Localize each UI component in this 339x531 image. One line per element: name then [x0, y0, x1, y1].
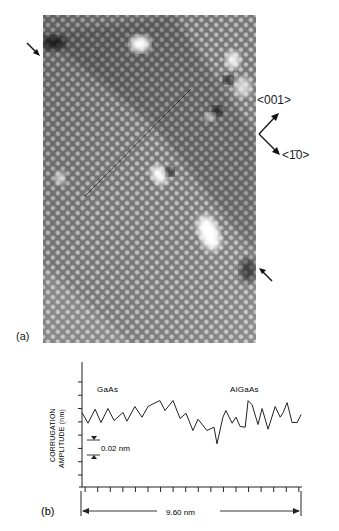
y-axis-label-line2: AMPLITUDE (nm): [58, 409, 66, 468]
y-axis-label-line1: CORRUGATION: [49, 408, 56, 462]
length-scale-label: 9.60 nm: [166, 508, 195, 517]
annotation-gaas: GaAs: [97, 385, 118, 394]
amplitude-scale-marker: [87, 436, 100, 459]
annotation-algaas: AlGaAs: [230, 385, 259, 394]
direction-label-1-10: <1̄0>: [282, 148, 309, 162]
x-axis-ticks: [85, 487, 299, 492]
interface-arrow-icon: [27, 43, 40, 56]
direction-label-001: <001>: [257, 93, 291, 107]
amplitude-scale-label: 0.02 nm: [101, 444, 130, 453]
interface-arrow-icon: [259, 268, 272, 281]
corrugation-trace: [82, 401, 301, 444]
crystal-direction-arrows-icon: [259, 113, 280, 155]
panel-label-b: (b): [41, 505, 54, 517]
panel-label-a: (a): [16, 330, 29, 342]
corrugation-profile-chart: CORRUGATION AMPLITUDE (nm) GaAs AlGaAs 0…: [0, 350, 339, 531]
y-axis-ticks: [78, 382, 82, 475]
